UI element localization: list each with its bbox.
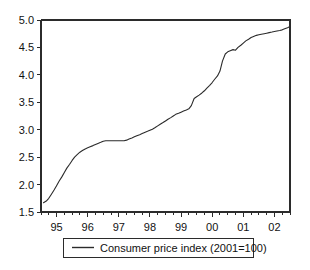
axis-frame	[41, 20, 290, 212]
y-tick-label: 2.5	[19, 151, 34, 163]
y-tick-label: 4.5	[19, 41, 34, 53]
x-tick-label: 01	[237, 221, 249, 233]
x-tick-label: 97	[113, 221, 125, 233]
chart-figure: 1.52.02.53.03.54.04.55.0 959697989900010…	[0, 0, 310, 270]
y-axis-ticks: 1.52.02.53.03.54.04.55.0	[19, 14, 41, 218]
x-tick-label: 99	[175, 221, 187, 233]
legend-entry-label: Consumer price index (2001=100)	[100, 242, 267, 254]
x-axis-ticks: 9596979899000102	[41, 212, 290, 233]
x-tick-label: 95	[50, 221, 62, 233]
x-tick-label: 96	[82, 221, 94, 233]
x-tick-label: 00	[206, 221, 218, 233]
y-tick-label: 4.0	[19, 69, 34, 81]
chart-legend: Consumer price index (2001=100)	[63, 238, 267, 257]
y-tick-label: 1.5	[19, 206, 34, 218]
y-tick-label: 3.0	[19, 124, 34, 136]
line-chart: 1.52.02.53.03.54.04.55.0 959697989900010…	[0, 0, 310, 270]
x-tick-label: 02	[268, 221, 280, 233]
y-tick-label: 5.0	[19, 14, 34, 26]
series-group	[43, 27, 290, 203]
x-tick-label: 98	[144, 221, 156, 233]
plot-frame	[41, 20, 290, 212]
series-line-cpi	[43, 27, 290, 203]
y-tick-label: 2.0	[19, 179, 34, 191]
y-tick-label: 3.5	[19, 96, 34, 108]
